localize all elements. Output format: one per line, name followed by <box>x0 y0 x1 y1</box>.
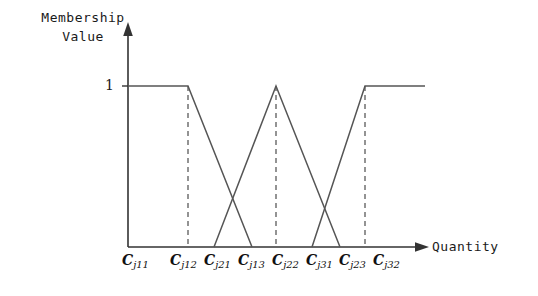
x-tick-label-cj22: Cj22 <box>272 252 299 270</box>
y-axis <box>123 22 133 247</box>
membership-curve-high <box>312 86 425 247</box>
x-tick-base: C <box>339 252 350 268</box>
x-axis-title: Quantity <box>432 237 499 256</box>
x-tick-label-cj32: Cj32 <box>373 252 400 270</box>
x-tick-subscript: j13 <box>249 259 265 270</box>
x-tick-label-cj31: Cj31 <box>306 252 333 270</box>
x-tick-base: C <box>122 252 133 268</box>
y-axis-title: MembershipValue <box>24 8 142 46</box>
membership-curve-low <box>128 86 252 247</box>
x-tick-subscript: j22 <box>283 259 299 270</box>
x-tick-base: C <box>306 252 317 268</box>
y-axis-title-line-1: Membership <box>41 10 124 25</box>
x-tick-subscript: j21 <box>215 259 231 270</box>
x-tick-base: C <box>204 252 215 268</box>
x-tick-base: C <box>170 252 181 268</box>
x-axis <box>128 242 429 251</box>
x-tick-label-cj13: Cj13 <box>238 252 265 270</box>
x-tick-subscript: j12 <box>181 259 197 270</box>
x-axis-arrow-icon <box>415 242 429 251</box>
y-tick-label-1: 1 <box>105 77 114 93</box>
x-tick-label-cj23: Cj23 <box>339 252 366 270</box>
y-axis-title-line-2: Value <box>62 29 104 44</box>
x-tick-subscript: j31 <box>317 259 333 270</box>
x-tick-subscript: j32 <box>384 259 400 270</box>
x-tick-label-cj12: Cj12 <box>170 252 197 270</box>
x-tick-subscript: j23 <box>350 259 366 270</box>
x-tick-subscript: j11 <box>133 259 149 270</box>
x-tick-base: C <box>373 252 384 268</box>
x-tick-base: C <box>238 252 249 268</box>
x-tick-label-cj11: Cj11 <box>122 252 149 270</box>
x-tick-label-cj21: Cj21 <box>204 252 231 270</box>
x-tick-base: C <box>272 252 283 268</box>
membership-curve-medium <box>214 86 340 247</box>
